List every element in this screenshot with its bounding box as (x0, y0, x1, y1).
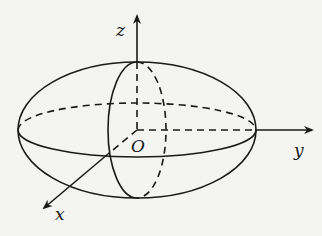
z-axis-label: z (115, 20, 126, 40)
x-axis (44, 154, 108, 208)
origin-label: O (131, 136, 145, 156)
meridian-front (108, 62, 137, 198)
y-axis-label: y (293, 140, 304, 160)
x-axis-label: x (55, 204, 65, 224)
ellipsoid-diagram: z y x O (0, 0, 322, 236)
